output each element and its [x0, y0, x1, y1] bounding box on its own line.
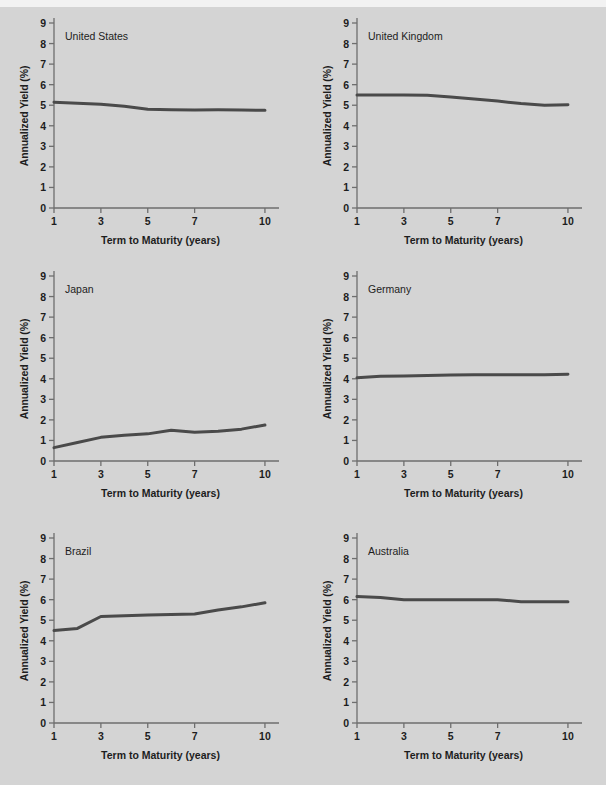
- panel-united-states: Annualized Yield (%)0123456789135710Term…: [0, 7, 303, 260]
- plot-area: [0, 260, 303, 490]
- panel-united-kingdom: Annualized Yield (%)0123456789135710Term…: [303, 7, 606, 260]
- yield-curve-line: [357, 95, 568, 105]
- x-axis-title: Term to Maturity (years): [101, 234, 220, 246]
- clipped-header-text: · · · ·: [150, 0, 240, 1]
- plot-area: [0, 7, 303, 237]
- figure-yield-curves: · · · · Annualized Yield (%)012345678913…: [0, 0, 606, 785]
- yield-curve-line: [54, 425, 265, 448]
- x-tick-label: 3: [401, 216, 407, 227]
- yield-curve-line: [357, 374, 568, 377]
- x-tick-label: 7: [192, 731, 198, 742]
- x-tick-label: 7: [192, 469, 198, 480]
- yield-curve-line: [54, 603, 265, 631]
- plot-area: [0, 522, 303, 752]
- x-tick-label: 1: [354, 216, 360, 227]
- x-tick-label: 5: [145, 216, 151, 227]
- x-tick-label: 7: [495, 216, 501, 227]
- panel-label: United Kingdom: [368, 30, 443, 42]
- x-tick-label: 10: [259, 216, 271, 227]
- x-axis-title: Term to Maturity (years): [404, 487, 523, 499]
- x-tick-label: 7: [192, 216, 198, 227]
- panel-grid: Annualized Yield (%)0123456789135710Term…: [0, 7, 606, 785]
- yield-curve-line: [54, 102, 265, 110]
- x-tick-label: 3: [98, 216, 104, 227]
- x-tick-label: 5: [448, 731, 454, 742]
- x-tick-label: 7: [495, 469, 501, 480]
- x-tick-label: 1: [51, 731, 57, 742]
- x-axis-title: Term to Maturity (years): [404, 234, 523, 246]
- x-tick-label: 3: [98, 469, 104, 480]
- x-tick-label: 7: [495, 731, 501, 742]
- clipped-header-strip: · · · ·: [0, 0, 606, 7]
- x-tick-label: 10: [562, 731, 574, 742]
- panel-germany: Annualized Yield (%)0123456789135710Term…: [303, 260, 606, 522]
- x-tick-label: 5: [448, 469, 454, 480]
- x-tick-label: 10: [562, 216, 574, 227]
- panel-brazil: Annualized Yield (%)0123456789135710Term…: [0, 522, 303, 785]
- x-tick-label: 5: [145, 469, 151, 480]
- x-tick-label: 1: [51, 469, 57, 480]
- plot-area: [303, 260, 606, 490]
- x-tick-label: 3: [401, 731, 407, 742]
- panel-label: United States: [65, 30, 128, 42]
- yield-curve-line: [357, 597, 568, 602]
- panel-japan: Annualized Yield (%)0123456789135710Term…: [0, 260, 303, 522]
- x-axis-title: Term to Maturity (years): [404, 749, 523, 761]
- panel-label: Australia: [368, 545, 409, 557]
- x-axis-title: Term to Maturity (years): [101, 487, 220, 499]
- x-tick-label: 3: [98, 731, 104, 742]
- x-tick-label: 1: [354, 469, 360, 480]
- x-tick-label: 10: [259, 469, 271, 480]
- panel-label: Japan: [65, 283, 94, 295]
- plot-area: [303, 522, 606, 752]
- x-tick-label: 5: [448, 216, 454, 227]
- x-tick-label: 1: [354, 731, 360, 742]
- x-tick-label: 1: [51, 216, 57, 227]
- panel-label: Germany: [368, 283, 411, 295]
- x-axis-title: Term to Maturity (years): [101, 749, 220, 761]
- plot-area: [303, 7, 606, 237]
- x-tick-label: 10: [562, 469, 574, 480]
- x-tick-label: 3: [401, 469, 407, 480]
- x-tick-label: 5: [145, 731, 151, 742]
- panel-australia: Annualized Yield (%)0123456789135710Term…: [303, 522, 606, 785]
- x-tick-label: 10: [259, 731, 271, 742]
- panel-label: Brazil: [65, 545, 91, 557]
